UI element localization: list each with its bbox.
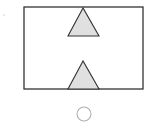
upper-triangle <box>68 8 99 36</box>
circle-radio[interactable] <box>77 107 91 121</box>
lower-triangle <box>68 61 99 89</box>
diagram-canvas <box>0 0 154 132</box>
dot-mark <box>3 14 4 15</box>
